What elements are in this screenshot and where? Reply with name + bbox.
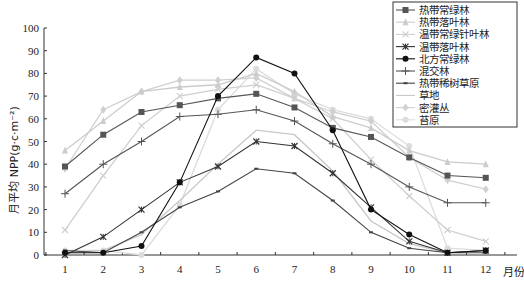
series-line <box>63 169 488 253</box>
legend: 热带常绿林热带落叶林温带常绿针叶林温带落叶林北方常绿林混交林热带稀树草原草地密灌… <box>393 2 517 127</box>
y-tick-label: 10 <box>28 226 40 238</box>
x-tick-label: 5 <box>215 263 221 275</box>
legend-label: 热带落叶林 <box>419 16 470 28</box>
y-tick-label: 50 <box>28 136 40 148</box>
y-tick-label: 100 <box>23 22 40 34</box>
legend-label: 草地 <box>419 89 440 101</box>
legend-label: 北方常绿林 <box>419 53 470 65</box>
x-tick-label: 8 <box>330 263 336 275</box>
y-tick-label: 80 <box>28 67 40 79</box>
legend-label: 温带落叶林 <box>419 41 470 53</box>
x-tick-label: 3 <box>139 263 145 275</box>
x-tick-label: 9 <box>368 263 374 275</box>
x-tick-label: 10 <box>404 263 416 275</box>
y-tick-label: 60 <box>28 113 40 125</box>
legend-label: 苔原 <box>419 114 439 126</box>
y-tick-label: 30 <box>28 181 40 193</box>
x-tick-label: 6 <box>254 263 260 275</box>
y-tick-label: 40 <box>28 158 40 170</box>
y-tick-label: 90 <box>28 45 40 57</box>
legend-label: 热带稀树草原 <box>419 77 479 89</box>
y-tick-label: 0 <box>34 249 40 261</box>
x-tick-label: 4 <box>177 263 183 275</box>
legend-label: 热带常绿林 <box>419 4 470 16</box>
x-tick-label: 7 <box>292 263 298 275</box>
x-tick-label: 12 <box>480 263 491 275</box>
y-tick-label: 20 <box>28 204 40 216</box>
y-tick-label: 70 <box>28 90 40 102</box>
y-axis-title: 月平均 NPP(g·c·m⁻²) <box>8 106 21 214</box>
npp-line-chart: 0102030405060708090100123456789101112 热带… <box>0 0 524 288</box>
legend-label: 混交林 <box>419 65 450 77</box>
x-axis-title: 月份 <box>503 266 524 279</box>
x-tick-label: 2 <box>101 263 107 275</box>
series-line <box>65 130 486 253</box>
legend-label: 温带常绿针叶林 <box>419 28 490 40</box>
x-tick-label: 1 <box>62 263 68 275</box>
legend-label: 密灌丛 <box>419 102 449 114</box>
x-tick-label: 11 <box>442 263 453 275</box>
